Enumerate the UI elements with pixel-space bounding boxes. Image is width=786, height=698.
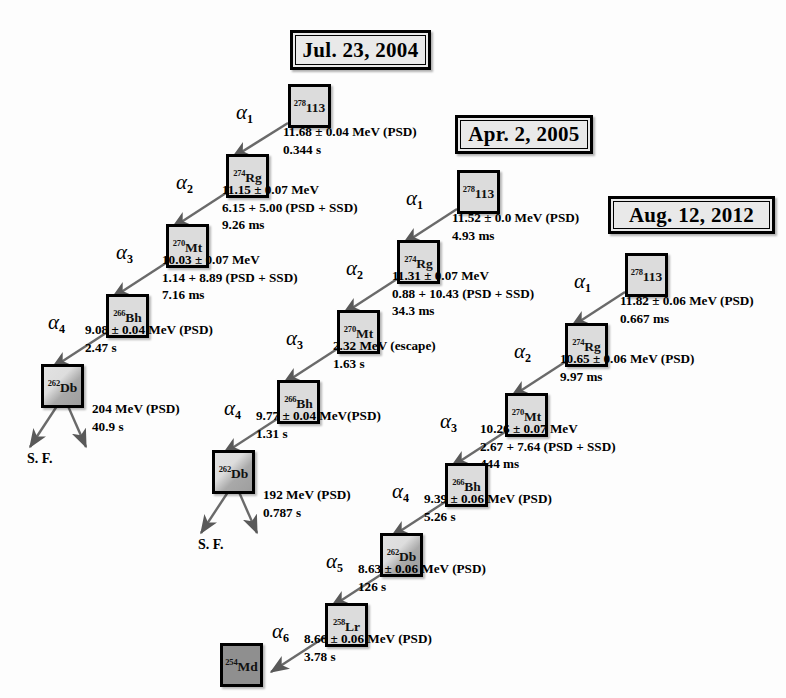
alpha-index-c1-3: 3 — [127, 252, 133, 266]
alpha-index-c1-4: 4 — [59, 322, 65, 336]
nuclide-symbol-c1-4: Db — [60, 379, 77, 394]
decay-energy-c2-1: 11.52 ± 0.0 MeV (PSD) — [452, 209, 579, 227]
alpha-index-c2-4: 4 — [235, 408, 241, 422]
fission-info-c2: 192 MeV (PSD) 0.787 s — [263, 486, 351, 521]
alpha-label-c3-4: α4 — [392, 479, 409, 506]
date-badge-label-chain-2: Apr. 2, 2005 — [468, 122, 579, 147]
nuclide-mass-c3-1: 274 — [572, 337, 584, 347]
arrow-c2-sf-left — [201, 492, 228, 533]
nuclide-mass-c2-1: 274 — [404, 254, 416, 264]
nuclide-box-c1-278-113: 278113 — [288, 84, 331, 128]
date-badge-chain-2: Apr. 2, 2005 — [455, 115, 593, 154]
fission-energy-c1: 204 MeV (PSD) — [92, 400, 180, 418]
decay-info-c3-2: 10.65 ± 0.06 MeV (PSD) 9.97 ms — [560, 350, 694, 385]
arrow-c1-sf-left — [30, 406, 57, 447]
alpha-label-c1-1: α1 — [236, 100, 253, 127]
decay-time-c1-4: 2.47 s — [85, 339, 213, 357]
arrow-c2-a3 — [283, 349, 337, 384]
alpha-label-c3-2: α2 — [514, 339, 531, 366]
alpha-index-c3-2: 2 — [525, 351, 531, 365]
fission-time-c1: 40.9 s — [92, 418, 180, 436]
decay-info-c2-4: 9.77 ± 0.04 MeV(PSD) 1.31 s — [256, 407, 381, 442]
arrow-c2-sf-right — [239, 492, 257, 533]
nuclide-mass-c2-0: 278 — [463, 184, 475, 194]
decay-energy-c3-4: 9.39 ± 0.06 MeV (PSD) — [424, 490, 552, 508]
alpha-index-c3-4: 4 — [403, 491, 409, 505]
decay-info-c2-3: 2.32 MeV (escape) 1.63 s — [333, 337, 436, 372]
decay-time-c3-1: 0.667 ms — [620, 310, 754, 328]
alpha-index-c3-6: 6 — [283, 631, 289, 645]
decay-time-c2-4: 1.31 s — [256, 425, 381, 443]
decay-info-c1-2: 11.15 ± 0.07 MeV 6.15 + 5.00 (PSD + SSD)… — [222, 181, 358, 234]
decay-energy-c2-3: 2.32 MeV (escape) — [333, 337, 436, 355]
fission-info-c1: 204 MeV (PSD) 40.9 s — [92, 400, 180, 435]
decay-detail-c1-3: 1.14 + 8.89 (PSD + SSD) — [162, 269, 298, 287]
alpha-label-c3-5: α5 — [326, 549, 343, 576]
decay-energy-c1-2: 11.15 ± 0.07 MeV — [222, 181, 358, 199]
decay-time-c3-2: 9.97 ms — [560, 368, 694, 386]
fission-time-c2: 0.787 s — [263, 504, 351, 522]
nuclide-box-c3-254-Md: 254Md — [220, 643, 263, 687]
decay-time-c2-1: 4.93 ms — [452, 227, 579, 245]
decay-time-c2-2: 34.3 ms — [392, 302, 534, 320]
nuclide-mass-c1-3: 266 — [113, 308, 125, 318]
arrow-c2-a2 — [343, 279, 397, 314]
date-badge-chain-3: Aug. 12, 2012 — [608, 196, 775, 234]
decay-info-c3-1: 11.82 ± 0.06 MeV (PSD) 0.667 ms — [620, 292, 754, 327]
arrow-c3-a2 — [511, 362, 565, 397]
decay-time-c1-2: 9.26 ms — [222, 216, 358, 234]
decay-info-c1-1: 11.68 ± 0.04 MeV (PSD) 0.344 s — [283, 123, 417, 158]
nuclide-mass-c2-3: 266 — [284, 394, 296, 404]
arrow-c3-a1 — [571, 292, 625, 327]
arrow-c1-a1 — [232, 123, 288, 158]
decay-time-c1-1: 0.344 s — [283, 141, 417, 159]
nuclide-box-c2-278-113: 278113 — [457, 170, 500, 214]
nuclide-mass-c2-4: 262 — [219, 464, 231, 474]
nuclide-symbol-c1-0: 113 — [306, 99, 326, 114]
fission-label-c2: S. F. — [198, 537, 224, 553]
decay-time-c1-3: 7.16 ms — [162, 286, 298, 304]
decay-info-c3-6: 8.66 ± 0.06 MeV (PSD) 3.78 s — [304, 630, 432, 665]
decay-detail-c2-2: 0.88 + 10.43 (PSD + SSD) — [392, 285, 534, 303]
decay-energy-c3-3: 10.26 ± 0.07 MeV — [480, 420, 616, 438]
nuclide-mass-c3-4: 262 — [387, 547, 399, 557]
nuclide-mass-c1-0: 278 — [294, 98, 306, 108]
arrow-c1-a3 — [112, 263, 166, 298]
decay-info-c3-3: 10.26 ± 0.07 MeV 2.67 + 7.64 (PSD + SSD)… — [480, 420, 616, 473]
alpha-label-c2-4: α4 — [224, 396, 241, 423]
decay-energy-c2-2: 11.31 ± 0.07 MeV — [392, 267, 534, 285]
alpha-label-c2-1: α1 — [406, 186, 423, 213]
decay-info-c3-5: 8.63 ± 0.06 MeV (PSD) 126 s — [358, 560, 486, 595]
alpha-label-c3-1: α1 — [574, 269, 591, 296]
nuclide-mass-c3-3: 266 — [452, 477, 464, 487]
alpha-index-c1-2: 2 — [187, 182, 193, 196]
decay-chain-figure: Jul. 23, 2004 278113 α1 11.68 ± 0.04 MeV… — [0, 0, 786, 698]
decay-time-c3-3: 444 ms — [480, 455, 616, 473]
nuclide-symbol-c3-0: 113 — [643, 268, 663, 283]
nuclide-mass-c1-4: 262 — [48, 378, 60, 388]
decay-info-c1-3: 10.03 ± 0.07 MeV 1.14 + 8.89 (PSD + SSD)… — [162, 251, 298, 304]
decay-info-c2-1: 11.52 ± 0.0 MeV (PSD) 4.93 ms — [452, 209, 579, 244]
decay-info-c2-2: 11.31 ± 0.07 MeV 0.88 + 10.43 (PSD + SSD… — [392, 267, 534, 320]
nuclide-mass-c2-2: 270 — [344, 324, 356, 334]
nuclide-symbol-c3-6: Md — [237, 658, 257, 673]
decay-energy-c2-4: 9.77 ± 0.04 MeV(PSD) — [256, 407, 381, 425]
alpha-index-c3-1: 1 — [585, 281, 591, 295]
decay-energy-c3-1: 11.82 ± 0.06 MeV (PSD) — [620, 292, 754, 310]
date-badge-label-chain-1: Jul. 23, 2004 — [303, 38, 419, 63]
alpha-label-c3-3: α3 — [440, 409, 457, 436]
alpha-label-c1-4: α4 — [48, 310, 65, 337]
nuclide-box-c3-278-113: 278113 — [625, 253, 668, 297]
alpha-label-c1-2: α2 — [176, 170, 193, 197]
fission-energy-c2: 192 MeV (PSD) — [263, 486, 351, 504]
decay-info-c3-4: 9.39 ± 0.06 MeV (PSD) 5.26 s — [424, 490, 552, 525]
nuclide-mass-c3-0: 278 — [631, 267, 643, 277]
date-badge-chain-1: Jul. 23, 2004 — [290, 30, 431, 70]
nuclide-symbol-c2-4: Db — [231, 465, 248, 480]
alpha-index-c2-2: 2 — [357, 268, 363, 282]
alpha-index-c3-3: 3 — [451, 421, 457, 435]
decay-energy-c3-2: 10.65 ± 0.06 MeV (PSD) — [560, 350, 694, 368]
alpha-index-c2-1: 1 — [417, 198, 423, 212]
nuclide-box-c2-262-Db: 262Db — [212, 450, 255, 494]
alpha-label-c3-6: α6 — [272, 619, 289, 646]
